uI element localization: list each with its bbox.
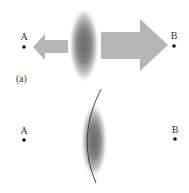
point-b-label-b: B: [172, 124, 179, 135]
panel-b: A B: [20, 89, 178, 183]
point-a-label: A: [20, 31, 28, 42]
charge-blob-b: [81, 103, 107, 179]
point-b-dot: [172, 44, 176, 48]
point-a-label-b: A: [20, 125, 28, 136]
panel-a-caption: (a): [16, 74, 27, 85]
point-a-dot: [22, 45, 26, 49]
right-arrow-icon: [101, 19, 168, 71]
diagram-canvas: A B (a) A B: [0, 0, 189, 193]
panel-a: A B (a): [16, 7, 178, 85]
point-b-dot-b: [173, 137, 177, 141]
charge-blob-a: [69, 7, 99, 83]
left-arrow-icon: [33, 34, 68, 60]
point-b-label: B: [171, 30, 178, 41]
point-a-dot-b: [22, 138, 26, 142]
